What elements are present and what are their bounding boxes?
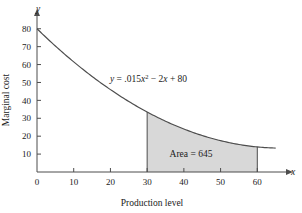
y-tick-label: 30 bbox=[22, 113, 32, 123]
x-tick-label: 60 bbox=[253, 177, 263, 187]
y-axis-ticks: 1020304050607080 bbox=[22, 24, 41, 159]
y-axis-variable-label: y bbox=[35, 4, 41, 14]
x-tick-label: 20 bbox=[106, 177, 116, 187]
y-tick-label: 60 bbox=[22, 60, 32, 70]
x-tick-label: 10 bbox=[69, 177, 79, 187]
x-tick-label: 30 bbox=[143, 177, 153, 187]
x-axis-variable-label: x bbox=[290, 167, 296, 177]
y-axis-caption: Marginal cost bbox=[1, 73, 11, 126]
shaded-area-annotation: Area = 645 bbox=[170, 149, 213, 159]
y-tick-label: 80 bbox=[22, 24, 32, 34]
x-tick-label: 40 bbox=[179, 177, 189, 187]
marginal-cost-figure: 1020304050607080 0102030405060 y x Produ… bbox=[0, 0, 302, 213]
curve-equation-annotation: y = .015x2 − 2x + 80 bbox=[109, 73, 187, 85]
x-tick-label: 0 bbox=[35, 177, 40, 187]
shaded-area-region bbox=[147, 112, 257, 172]
chart-canvas: 1020304050607080 0102030405060 y x Produ… bbox=[0, 0, 302, 213]
y-tick-label: 10 bbox=[22, 149, 32, 159]
y-tick-label: 70 bbox=[22, 42, 32, 52]
x-tick-label: 50 bbox=[216, 177, 226, 187]
y-tick-label: 40 bbox=[22, 96, 32, 106]
y-tick-label: 20 bbox=[22, 131, 32, 141]
x-axis-caption: Production level bbox=[121, 198, 184, 208]
y-tick-label: 50 bbox=[22, 78, 32, 88]
